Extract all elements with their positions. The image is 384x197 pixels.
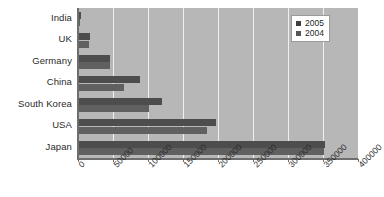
bar-china-2004 (78, 84, 124, 91)
gridline (183, 8, 184, 158)
category-label-japan: Japan (0, 142, 72, 152)
bar-usa-2004 (78, 127, 207, 134)
gridline (218, 8, 219, 158)
gridline (148, 8, 149, 158)
bar-uk-2004 (78, 41, 89, 48)
category-axis: IndiaUKGermanyChinaSouth KoreaUSAJapan (0, 8, 76, 158)
category-label-india: India (0, 13, 72, 23)
legend-label: 2005 (305, 18, 324, 28)
legend-label: 2004 (305, 28, 324, 38)
legend-swatch-2005-icon (296, 21, 301, 26)
bar-china-2005 (78, 76, 140, 83)
x-tick-label: 0 (77, 160, 87, 170)
gridline (253, 8, 254, 158)
bar-germany-2005 (78, 55, 110, 62)
bar-germany-2004 (78, 62, 110, 69)
legend-item-2005: 2005 (296, 18, 324, 28)
gridline (288, 8, 289, 158)
bar-uk-2005 (78, 33, 90, 40)
chart-legend: 20052004 (291, 15, 330, 42)
y-axis-line (77, 8, 79, 159)
category-label-usa: USA (0, 120, 72, 130)
bar-usa-2005 (78, 119, 216, 126)
category-label-germany: Germany (0, 56, 72, 66)
bar-south-korea-2004 (78, 105, 149, 112)
legend-swatch-2004-icon (296, 31, 301, 36)
legend-item-2004: 2004 (296, 28, 324, 38)
x-tick-label: 400000 (357, 143, 384, 170)
category-label-china: China (0, 77, 72, 87)
bar-south-korea-2005 (78, 98, 162, 105)
category-label-south-korea: South Korea (0, 99, 72, 109)
category-label-uk: UK (0, 34, 72, 44)
